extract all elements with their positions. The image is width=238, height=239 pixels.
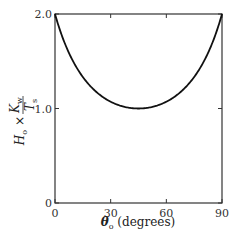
data-curve — [55, 14, 222, 109]
svg-text:Ts: Ts — [23, 99, 39, 111]
y-axis-label: Ho × Kw Ts — [8, 96, 39, 146]
y-tick-label: 2.0 — [35, 8, 53, 21]
y-tick-label: 1.0 — [35, 103, 53, 116]
svg-text:Ho ×: Ho × — [13, 116, 29, 146]
x-tick-label: 0 — [52, 207, 59, 220]
chart: 0306090 01.02.0 θo (degrees) Ho × Kw Ts — [0, 0, 238, 239]
svg-text:Kw: Kw — [8, 97, 24, 114]
x-axis-ticks: 0306090 — [52, 14, 230, 220]
y-tick-label: 0 — [45, 197, 52, 210]
x-tick-label: 90 — [215, 207, 229, 220]
